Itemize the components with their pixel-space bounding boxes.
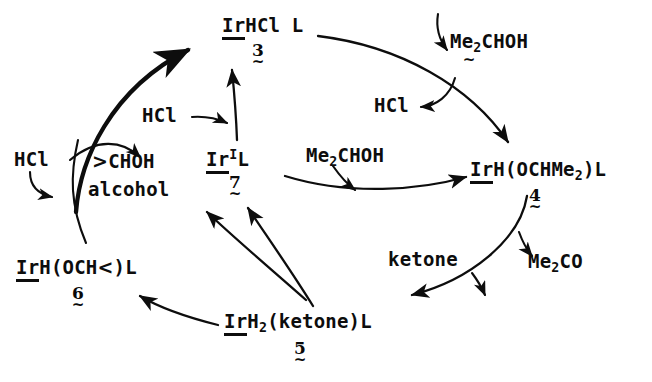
arrow-hcl-into-7-3-path [192, 117, 227, 123]
me2choh-top-tilde-mark: ~ [456, 56, 482, 67]
compound-number-4-tilde: ~ [470, 200, 600, 214]
arrow-complex-5-to-complex-7 [248, 208, 313, 306]
compound-number-5: 5 ~ [224, 340, 376, 367]
reagent-label-me2choh-middle: Me2CHOH [306, 146, 384, 169]
arrow-ketone-into-4-5-path [472, 273, 485, 295]
compound-number-6: 6 ~ [16, 285, 140, 312]
me2choh-top-tilde: ~ [456, 53, 482, 67]
arrow-complex-7-to-complex-3 [232, 70, 237, 140]
arrow-hcl-enters-left [30, 172, 52, 197]
species-label-4: IrH(OCHMe2)L [470, 160, 606, 183]
species-label-6: IrH(OCH<)L [16, 258, 137, 277]
reagent-label-me2choh-top: Me2CHOH [450, 32, 528, 55]
compound-number-7-tilde: ~ [206, 187, 264, 201]
reaction-scheme-diagram: IrHCl L 3 ~ IrIL 7 ~ IrH(OCHMe2)L 4 ~ Ir… [0, 0, 652, 382]
reagent-label-choh: >CHOH [92, 152, 155, 171]
arrow-me2choh-into-3-4-path [437, 14, 447, 50]
compound-number-7: 7 ~ [206, 174, 264, 201]
arrow-complex-7-to-complex-4 [285, 176, 466, 189]
compound-number-3-tilde: ~ [222, 55, 294, 69]
reagent-label-me2co: Me2CO [528, 252, 583, 275]
compound-number-3: 3 ~ [222, 42, 294, 69]
reagent-label-hcl-left: HCl [14, 150, 49, 169]
compound-number-4: 4 ~ [470, 187, 600, 214]
species-label-3: IrHCl L [222, 16, 303, 35]
compound-number-5-tilde: ~ [224, 353, 376, 367]
species-label-5: IrH2(ketone)L [224, 312, 372, 335]
reagent-label-hcl-top: HCl [374, 96, 409, 115]
reagent-label-hcl-middle: HCl [142, 106, 177, 125]
species-label-7: IrIL [206, 148, 249, 169]
junction-tail-stroke [73, 140, 86, 243]
arrow-complex-5-to-complex-6 [140, 296, 218, 325]
arrow-me2choh-into-7-4-path [333, 166, 355, 190]
arrow-complex-5-to-alcohol [207, 212, 306, 300]
compound-number-6-tilde: ~ [16, 298, 140, 312]
reagent-label-ketone: ketone [388, 250, 458, 269]
arrow-hcl-out-of-3-4-path [421, 78, 455, 107]
reagent-label-alcohol: alcohol [88, 180, 169, 199]
